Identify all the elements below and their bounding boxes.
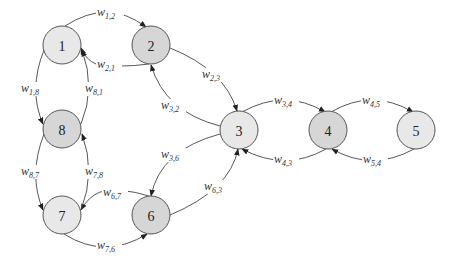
node-3: 3 — [220, 111, 258, 149]
node-1: 1 — [43, 26, 81, 64]
node-4: 4 — [309, 111, 347, 149]
svg-text:2: 2 — [148, 39, 155, 54]
node-7: 7 — [43, 196, 81, 234]
node-8: 8 — [43, 110, 81, 148]
svg-text:1: 1 — [59, 39, 66, 54]
node-2: 2 — [132, 26, 170, 64]
svg-text:4: 4 — [325, 124, 332, 139]
svg-text:3: 3 — [236, 124, 243, 139]
graph-diagram: w1,2 w2,1 w2,3 w3,2 w3,4 w4,3 w4,5 w5,4 … — [0, 0, 456, 266]
node-5: 5 — [397, 111, 435, 149]
svg-text:5: 5 — [413, 124, 420, 139]
svg-text:6: 6 — [148, 209, 155, 224]
node-6: 6 — [132, 196, 170, 234]
svg-text:8: 8 — [59, 123, 66, 138]
svg-text:7: 7 — [59, 209, 66, 224]
